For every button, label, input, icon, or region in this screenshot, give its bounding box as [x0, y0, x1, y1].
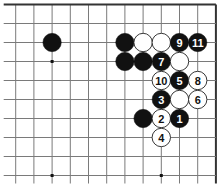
move-number: 5 — [176, 75, 182, 87]
white-stone-6: 6 — [189, 90, 207, 108]
star-point — [51, 60, 54, 63]
black-stone-7: 7 — [152, 52, 170, 70]
go-board[interactable]: 9117105836214 — [0, 0, 221, 196]
white-stone — [170, 90, 188, 108]
white-stone — [170, 52, 188, 70]
white-stone-2: 2 — [152, 109, 170, 127]
black-stone-11: 11 — [189, 33, 207, 51]
black-stone — [116, 52, 134, 70]
white-stone-10: 10 — [152, 71, 170, 89]
stone-disc — [116, 52, 134, 70]
move-number: 7 — [158, 56, 164, 68]
white-stone-8: 8 — [189, 71, 207, 89]
black-stone-5: 5 — [170, 71, 188, 89]
stone-disc — [116, 33, 134, 51]
black-stone-9: 9 — [170, 33, 188, 51]
stone-disc — [134, 109, 152, 127]
black-stone — [134, 109, 152, 127]
black-stone-3: 3 — [152, 90, 170, 108]
black-stone-1: 1 — [170, 109, 188, 127]
white-stone-4: 4 — [152, 128, 170, 146]
move-number: 3 — [158, 94, 164, 106]
move-number: 2 — [158, 113, 164, 125]
stone-disc — [152, 33, 170, 51]
stone-disc — [170, 90, 188, 108]
move-number: 8 — [195, 75, 201, 87]
stone-disc — [134, 33, 152, 51]
move-number: 10 — [155, 75, 167, 87]
stone-disc — [170, 52, 188, 70]
move-number: 1 — [176, 113, 182, 125]
black-stone — [43, 33, 61, 51]
star-point — [51, 174, 54, 177]
white-stone — [134, 33, 152, 51]
move-number: 6 — [195, 94, 201, 106]
move-number: 11 — [192, 37, 204, 49]
black-stone — [116, 33, 134, 51]
stone-disc — [43, 33, 61, 51]
white-stone — [152, 33, 170, 51]
stone-disc — [134, 52, 152, 70]
black-stone — [134, 52, 152, 70]
star-point — [160, 174, 163, 177]
move-number: 9 — [176, 37, 182, 49]
move-number: 4 — [158, 132, 165, 144]
